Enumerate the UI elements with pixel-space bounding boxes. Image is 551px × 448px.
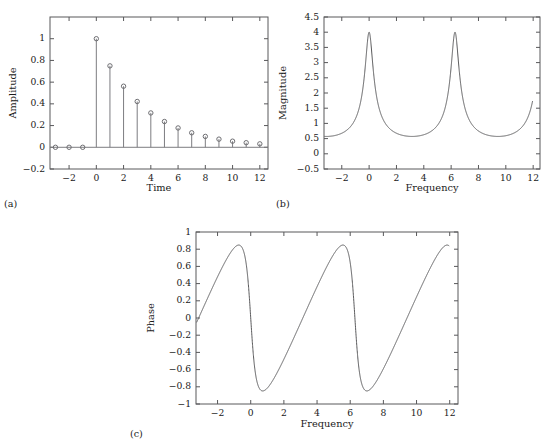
y-tick-label: 3.5 — [304, 41, 319, 52]
y-tick-label: 1.5 — [304, 102, 319, 113]
x-tick-label: 2 — [121, 172, 127, 183]
y-tick-label: 1 — [39, 32, 45, 43]
x-tick-label: 0 — [366, 172, 372, 183]
y-tick-label: 1 — [185, 226, 191, 237]
panel-b-tag: (b) — [276, 198, 290, 209]
y-tick-label: 0.6 — [176, 260, 191, 271]
y-tick-label: 0.6 — [30, 76, 45, 87]
x-tick-label: 4 — [314, 407, 320, 418]
y-tick-label: −0.2 — [23, 163, 45, 174]
x-tick-label: 10 — [227, 172, 239, 183]
x-tick-label: 8 — [476, 172, 482, 183]
x-axis-title: Time — [147, 182, 172, 193]
x-tick-label: −2 — [211, 407, 225, 418]
y-tick-label: 4.5 — [304, 11, 319, 22]
x-tick-label: 6 — [347, 407, 353, 418]
panel-b-magnitude: −2024681012−0.500.511.522.533.544.5Frequ… — [272, 2, 551, 217]
y-tick-label: 0.4 — [30, 97, 45, 108]
panel-a-tag: (a) — [4, 198, 17, 209]
x-tick-label: 2 — [281, 407, 287, 418]
y-tick-label: 3 — [313, 56, 319, 67]
panel-b-plot: −2024681012−0.500.511.522.533.544.5Frequ… — [272, 2, 551, 217]
x-tick-label: 6 — [175, 172, 181, 183]
y-tick-label: 0.8 — [176, 243, 191, 254]
x-tick-label: 12 — [527, 172, 539, 183]
x-tick-label: 8 — [202, 172, 208, 183]
panel-c-phase: −2024681012−1−0.8−0.6−0.4−0.200.20.40.60… — [128, 218, 458, 448]
x-tick-label: 2 — [394, 172, 400, 183]
x-tick-label: 12 — [444, 407, 456, 418]
y-tick-label: −1 — [177, 398, 191, 409]
y-tick-label: 0 — [313, 147, 319, 158]
y-tick-label: −0.6 — [169, 363, 191, 374]
y-tick-label: 2 — [313, 87, 319, 98]
x-tick-label: 10 — [411, 407, 423, 418]
x-axis-title: Frequency — [406, 182, 459, 193]
panel-a-plot: −2024681012−0.200.20.40.60.81TimeAmplitu… — [0, 2, 280, 217]
y-tick-label: −0.4 — [169, 346, 191, 357]
y-tick-label: 0.5 — [304, 132, 319, 143]
panel-c-plot: −2024681012−1−0.8−0.6−0.4−0.200.20.40.60… — [128, 218, 458, 448]
y-tick-label: 0 — [185, 312, 191, 323]
y-tick-label: 0.4 — [176, 277, 191, 288]
y-tick-label: 0 — [39, 141, 45, 152]
x-tick-label: 8 — [380, 407, 386, 418]
y-tick-label: 0.2 — [30, 119, 45, 130]
data-curve — [197, 245, 449, 391]
y-axis-title: Phase — [145, 303, 156, 333]
x-tick-label: −2 — [62, 172, 76, 183]
plot-frame — [324, 17, 540, 169]
y-tick-label: 4 — [313, 26, 319, 37]
y-tick-label: −0.8 — [169, 380, 191, 391]
data-curve — [325, 32, 533, 136]
x-tick-label: −2 — [335, 172, 349, 183]
y-tick-label: 0.2 — [176, 294, 191, 305]
y-tick-label: 1 — [313, 117, 319, 128]
x-tick-label: 0 — [248, 407, 254, 418]
x-tick-label: 12 — [254, 172, 266, 183]
x-axis-title: Frequency — [301, 418, 354, 429]
y-axis-title: Amplitude — [7, 67, 18, 119]
y-tick-label: −0.2 — [169, 329, 191, 340]
y-tick-label: 0.8 — [30, 54, 45, 65]
x-tick-label: 10 — [500, 172, 512, 183]
panel-a-amplitude: −2024681012−0.200.20.40.60.81TimeAmplitu… — [0, 2, 280, 217]
x-tick-label: 0 — [93, 172, 99, 183]
panel-c-tag: (c) — [130, 428, 143, 439]
y-tick-label: 2.5 — [304, 71, 319, 82]
y-axis-title: Magnitude — [277, 66, 288, 120]
plot-frame — [50, 17, 268, 169]
plot-frame — [196, 232, 458, 404]
y-tick-label: −0.5 — [297, 163, 319, 174]
